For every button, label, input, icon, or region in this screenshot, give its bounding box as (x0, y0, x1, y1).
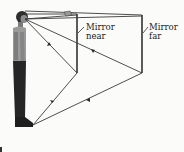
foot-rays (33, 73, 142, 125)
mirror-far-label-line2: far (149, 32, 178, 41)
upper-rays (25, 11, 142, 19)
mirror-near-label: Mirror near (86, 23, 115, 41)
person-figure (13, 11, 33, 127)
ray-arrows (47, 42, 95, 103)
mirror-near-label-line2: near (86, 32, 115, 41)
mirror-far-label: Mirror far (149, 23, 178, 41)
